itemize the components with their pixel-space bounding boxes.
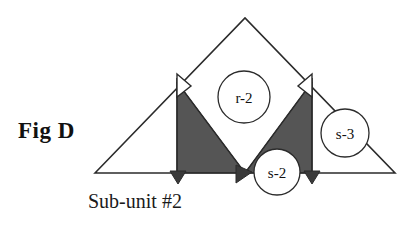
node-s-2[interactable]: s-2	[254, 149, 300, 195]
node-r-2-label: r-2	[235, 90, 252, 106]
base-arrow-left-icon	[170, 171, 186, 184]
node-s-3[interactable]: s-3	[321, 109, 369, 157]
figure-label: Fig D	[18, 118, 75, 144]
figure-caption: Sub-unit #2	[88, 190, 182, 213]
node-s-3-label: s-3	[336, 126, 354, 142]
base-arrow-right-icon	[304, 171, 320, 184]
figure-container: r-2 s-3 s-2 Fig D Sub-unit #2	[0, 0, 420, 239]
node-s-2-label: s-2	[268, 165, 286, 181]
node-r-2[interactable]: r-2	[218, 71, 270, 123]
